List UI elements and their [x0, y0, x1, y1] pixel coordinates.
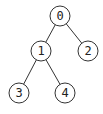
binary-tree-diagram: 0 1 2 3 4 [0, 0, 103, 114]
tree-node-4: 4 [55, 83, 75, 103]
node-label: 4 [61, 86, 68, 100]
tree-node-3: 3 [9, 83, 29, 103]
node-label: 0 [56, 9, 63, 23]
node-label: 2 [84, 44, 91, 58]
tree-node-2: 2 [78, 41, 98, 61]
tree-node-0: 0 [50, 6, 70, 26]
node-label: 1 [37, 44, 44, 58]
node-label: 3 [15, 86, 22, 100]
tree-node-1: 1 [31, 41, 51, 61]
